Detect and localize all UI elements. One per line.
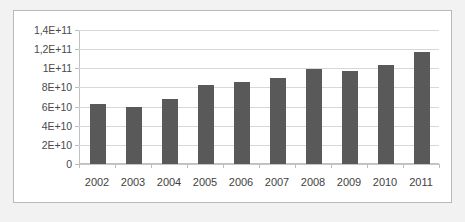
x-axis-tick-label: 2009 xyxy=(337,176,361,188)
x-axis-tick xyxy=(439,164,440,168)
x-axis-label-slot: 2002 xyxy=(79,30,115,164)
x-axis-tick-label: 2007 xyxy=(265,176,289,188)
x-axis-tick xyxy=(295,164,296,168)
y-axis-tick-label: 0 xyxy=(66,158,72,170)
x-axis-tick xyxy=(259,164,260,168)
x-axis-tick-label: 2008 xyxy=(301,176,325,188)
x-axis-label-slot: 2004 xyxy=(151,30,187,164)
x-axis-label-slot: 2010 xyxy=(367,30,403,164)
chart-figure: 02E+104E+106E+108E+101E+111,2E+111,4E+11… xyxy=(0,0,465,222)
x-axis-tick-label: 2002 xyxy=(85,176,109,188)
x-axis-tick-label: 2010 xyxy=(373,176,397,188)
x-axis-tick xyxy=(223,164,224,168)
y-axis-tick-label: 1,4E+11 xyxy=(34,24,72,36)
x-axis-label-slot: 2011 xyxy=(403,30,439,164)
x-axis-tick-label: 2003 xyxy=(121,176,145,188)
x-axis-tick-label: 2006 xyxy=(229,176,253,188)
x-axis-tick-label: 2004 xyxy=(157,176,181,188)
y-axis-tick-label: 8E+10 xyxy=(42,81,72,93)
x-axis-label-slot: 2009 xyxy=(331,30,367,164)
x-axis-tick xyxy=(403,164,404,168)
x-axis-label-slot: 2007 xyxy=(259,30,295,164)
x-axis-tick-label: 2005 xyxy=(193,176,217,188)
x-axis-tick xyxy=(151,164,152,168)
y-axis-tick-label: 1E+11 xyxy=(43,62,72,74)
x-axis-label-slot: 2003 xyxy=(115,30,151,164)
x-axis-tick xyxy=(367,164,368,168)
x-axis-tick-label: 2011 xyxy=(409,176,433,188)
chart-plot-box: 02E+104E+106E+108E+101E+111,2E+111,4E+11… xyxy=(13,10,452,203)
y-axis-tick-label: 4E+10 xyxy=(42,120,72,132)
x-axis-label-slot: 2005 xyxy=(187,30,223,164)
y-axis-tick-label: 6E+10 xyxy=(42,101,72,113)
x-axis-tick xyxy=(187,164,188,168)
x-axis-tick xyxy=(115,164,116,168)
x-axis-tick xyxy=(79,164,80,168)
x-axis-label-slot: 2008 xyxy=(295,30,331,164)
x-axis-tick xyxy=(331,164,332,168)
plot-area: 02E+104E+106E+108E+101E+111,2E+111,4E+11… xyxy=(79,30,439,164)
x-axis-label-slot: 2006 xyxy=(223,30,259,164)
y-axis-tick-label: 2E+10 xyxy=(42,139,72,151)
y-axis-tick-label: 1,2E+11 xyxy=(34,43,72,55)
